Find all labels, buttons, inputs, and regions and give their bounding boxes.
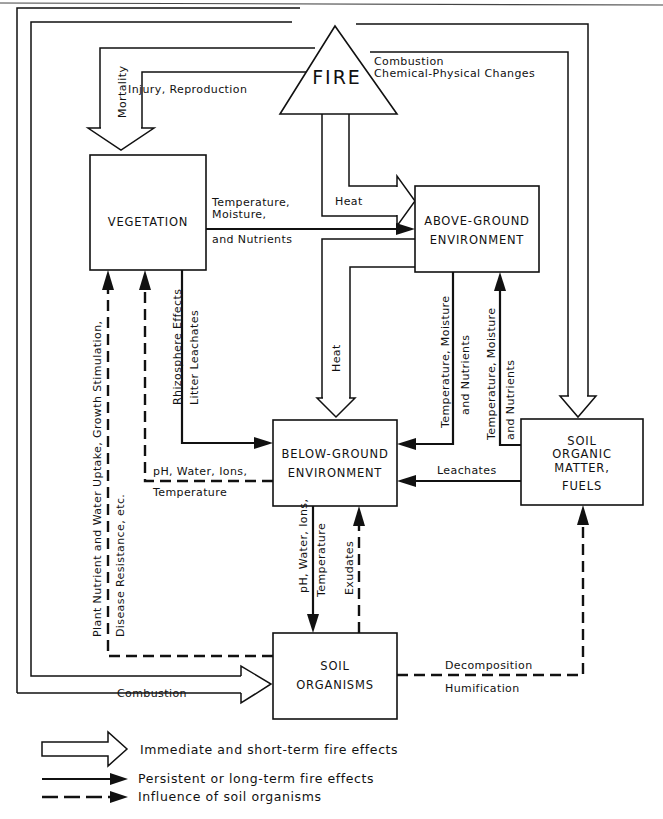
- arrow-fire-to-above-ground: [322, 114, 415, 226]
- below-ground-label-2: ENVIRONMENT: [288, 466, 383, 480]
- label-humification: Humification: [445, 682, 520, 695]
- soil-organic-label-4: FUELS: [562, 479, 602, 493]
- label-below-organisms-1: pH, Water, Ions,: [297, 499, 310, 593]
- label-injury-reproduction: Injury, Reproduction: [128, 83, 247, 96]
- label-organic-above-1: Temperature, Moisture: [485, 308, 498, 441]
- label-above-below-2: and Nutrients: [459, 335, 472, 415]
- label-chemical-physical: Chemical-Physical Changes: [374, 67, 535, 80]
- fire-effects-diagram: FIRE VEGETATION ABOVE-GROUND ENVIRONMENT…: [0, 0, 663, 819]
- vegetation-node: [90, 155, 206, 270]
- label-decomposition: Decomposition: [445, 659, 533, 672]
- soil-organic-label-2: ORGANIC: [552, 447, 611, 461]
- soil-organisms-node: [273, 633, 397, 719]
- label-leachates: Leachates: [437, 464, 497, 477]
- label-rhizosphere: Rhizosphere Effects: [171, 289, 184, 405]
- label-mortality: Mortality: [116, 66, 129, 118]
- combustion-outer-arrow: [17, 8, 300, 703]
- above-ground-label-2: ENVIRONMENT: [430, 233, 525, 247]
- legend-item-dashed: Influence of soil organisms: [42, 789, 322, 804]
- legend-item-solid: Persistent or long-term fire effects: [42, 771, 374, 786]
- label-combustion-bottom: Combustion: [117, 687, 187, 700]
- label-exudates: Exudates: [343, 541, 356, 595]
- label-veg-above-2: Moisture,: [212, 208, 266, 221]
- soil-organisms-label-1: SOIL: [320, 659, 349, 673]
- label-litter-leachates: Litter Leachates: [188, 310, 201, 405]
- legend-item-hollow: Immediate and short-term fire effects: [42, 732, 398, 766]
- soil-organic-label-3: MATTER,: [554, 461, 609, 475]
- fire-label: FIRE: [312, 66, 362, 88]
- label-heat-fire-above: Heat: [335, 195, 363, 208]
- arrow-soil-organisms-to-soil-organic: [397, 505, 589, 675]
- arrow-above-to-below-heat: [317, 239, 415, 417]
- below-ground-label-1: BELOW-GROUND: [281, 447, 388, 461]
- legend-label-solid: Persistent or long-term fire effects: [138, 771, 374, 786]
- legend-label-hollow: Immediate and short-term fire effects: [140, 742, 398, 757]
- page-top-rule: [0, 3, 663, 5]
- soil-organisms-label-2: ORGANISMS: [296, 678, 374, 692]
- label-veg-above-3: and Nutrients: [212, 233, 292, 246]
- above-ground-node: [415, 186, 539, 272]
- label-plant-uptake-1: Plant Nutrient and Water Uptake, Growth …: [91, 321, 104, 637]
- soil-organic-label-1: SOIL: [567, 434, 596, 448]
- legend-label-dashed: Influence of soil organisms: [138, 789, 322, 804]
- label-below-veg-2: Temperature: [152, 486, 227, 499]
- below-ground-node: [273, 420, 397, 506]
- label-organic-above-2: and Nutrients: [504, 360, 517, 440]
- label-below-organisms-2: Temperature: [315, 523, 328, 598]
- label-plant-uptake-2: Disease Resistance, etc.: [114, 494, 127, 637]
- arrow-below-to-vegetation: [139, 270, 273, 481]
- label-above-below-1: Temperature, Moisture: [439, 296, 452, 429]
- above-ground-label-1: ABOVE-GROUND: [424, 214, 530, 228]
- label-below-veg-1: pH, Water, Ions,: [153, 465, 247, 478]
- label-heat-above-below: Heat: [330, 344, 343, 372]
- legend: Immediate and short-term fire effects Pe…: [42, 732, 398, 804]
- vegetation-label: VEGETATION: [108, 215, 189, 229]
